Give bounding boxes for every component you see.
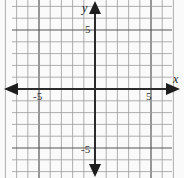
x-tick-label-pos5: 5 <box>146 90 152 102</box>
y-axis-name: y <box>81 1 88 15</box>
y-axis-up-arrow-icon <box>89 1 101 14</box>
x-tick-label-neg5: -5 <box>33 90 43 102</box>
x-axis-name: x <box>172 72 179 86</box>
y-tick-label-neg5: -5 <box>81 143 91 155</box>
x-axis <box>4 83 180 95</box>
y-axis-down-arrow-icon <box>89 164 101 177</box>
x-axis-left-arrow-icon <box>4 83 18 95</box>
y-tick-label-pos5: 5 <box>85 23 91 35</box>
coordinate-plane: x y -5 5 5 -5 <box>0 0 184 178</box>
